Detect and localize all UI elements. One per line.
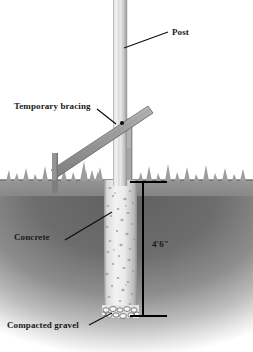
label-compacted-gravel: Compacted gravel bbox=[7, 321, 79, 330]
concrete-pier bbox=[104, 180, 137, 308]
post-footing-illustration bbox=[0, 0, 253, 352]
post bbox=[113, 0, 127, 186]
label-post: Post bbox=[172, 28, 189, 37]
brace-ground-stake bbox=[52, 153, 58, 193]
label-concrete: Concrete bbox=[14, 233, 50, 242]
brace-fastener-dot bbox=[120, 121, 124, 125]
label-depth-dimension: 4'6" bbox=[152, 240, 169, 249]
label-temporary-bracing: Temporary bracing bbox=[14, 102, 91, 111]
diagram-canvas bbox=[0, 0, 253, 352]
